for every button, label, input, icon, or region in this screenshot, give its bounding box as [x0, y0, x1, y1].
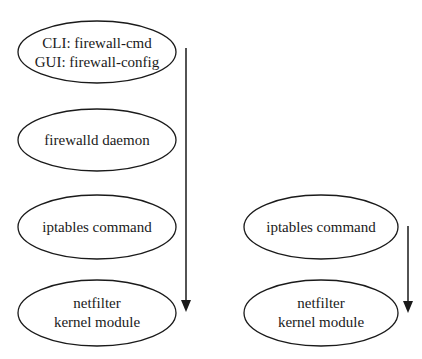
node-iptables-command-left: iptables command: [18, 195, 176, 259]
node-label-line2: kernel module: [54, 314, 141, 330]
node-label-line2: GUI: firewall-config: [35, 54, 160, 70]
node-netfilter-left: netfilter kernel module: [18, 280, 176, 346]
node-label-line1: netfilter: [73, 295, 120, 311]
node-label-line1: netfilter: [297, 295, 344, 311]
node-firewall-cli-gui: CLI: firewall-cmd GUI: firewall-config: [18, 21, 176, 83]
node-netfilter-right: netfilter kernel module: [244, 280, 398, 346]
down-arrow-icon: [403, 226, 413, 313]
node-label-line2: kernel module: [278, 314, 365, 330]
down-arrow-icon: [181, 48, 191, 312]
node-label: firewalld daemon: [44, 132, 150, 148]
node-label: iptables command: [266, 219, 376, 235]
node-label: iptables command: [42, 219, 152, 235]
node-firewalld-daemon: firewalld daemon: [18, 109, 176, 171]
node-label-line1: CLI: firewall-cmd: [42, 35, 152, 51]
node-iptables-command-right: iptables command: [244, 195, 398, 259]
firewall-architecture-diagram: CLI: firewall-cmd GUI: firewall-config f…: [0, 0, 422, 359]
